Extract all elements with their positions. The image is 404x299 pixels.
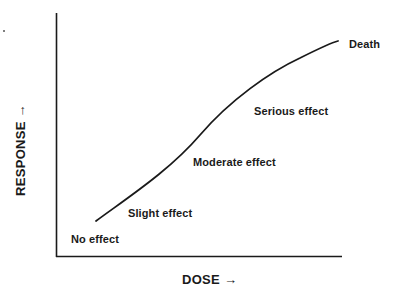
label-serious-effect: Serious effect	[254, 105, 328, 117]
label-slight-effect: Slight effect	[128, 207, 192, 219]
label-death: Death	[349, 38, 380, 50]
label-no-effect: No effect	[71, 233, 119, 245]
x-axis-title: DOSE →	[182, 272, 237, 287]
speck-mark	[3, 30, 5, 32]
dose-response-figure: No effect Slight effect Moderate effect …	[0, 0, 404, 299]
label-moderate-effect: Moderate effect	[193, 156, 276, 168]
chart-canvas	[0, 0, 404, 299]
y-axis-title: RESPONSE →	[13, 104, 28, 196]
dose-response-curve	[96, 41, 338, 221]
